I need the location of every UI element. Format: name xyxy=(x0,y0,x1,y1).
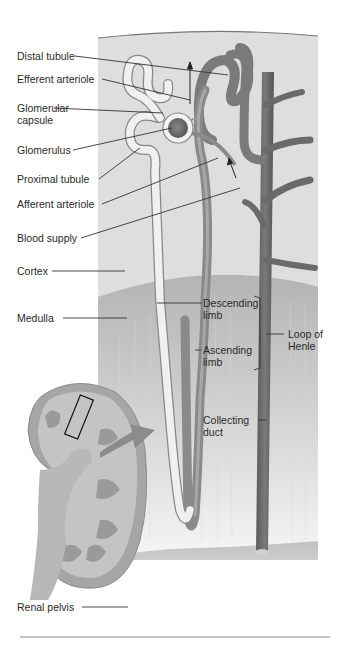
label-blood-supply: Blood supply xyxy=(17,232,77,244)
label-efferent-arteriole: Efferent arteriole xyxy=(17,73,94,85)
label-glomerular-capsule-2: capsule xyxy=(17,114,53,126)
label-renal-pelvis: Renal pelvis xyxy=(17,601,74,613)
label-loop-of-henle-1: Loop of xyxy=(288,328,323,340)
label-loop-of-henle-2: Henle xyxy=(288,340,315,352)
label-proximal-tubule: Proximal tubule xyxy=(17,173,89,185)
label-glomerulus: Glomerulus xyxy=(17,144,71,156)
label-cortex: Cortex xyxy=(17,265,48,277)
label-descending-limb-2: limb xyxy=(203,309,222,321)
label-ascending-limb-1: Ascending xyxy=(203,344,252,356)
label-distal-tubule: Distal tubule xyxy=(17,50,75,62)
label-ascending-limb-2: limb xyxy=(203,356,222,368)
label-medulla: Medulla xyxy=(17,312,54,324)
label-descending-limb-1: Descending xyxy=(203,297,258,309)
label-afferent-arteriole: Afferent arteriole xyxy=(17,198,94,210)
label-collecting-duct-1: Collecting xyxy=(203,414,249,426)
label-collecting-duct-2: duct xyxy=(203,426,223,438)
nephron-diagram: Distal tubule Efferent arteriole Glomeru… xyxy=(0,0,348,647)
label-glomerular-capsule-1: Glomerular xyxy=(17,102,69,114)
